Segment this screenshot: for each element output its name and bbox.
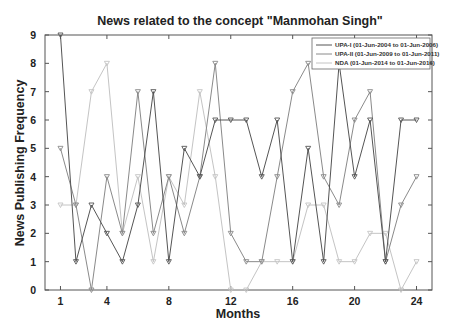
legend: UPA-I (01-Jun-2004 to 01-Jun-2006)UPA-II… [312,38,439,69]
x-tick-label: 8 [166,295,172,307]
y-tick-label: 9 [30,29,36,41]
y-tick-label: 2 [30,227,36,239]
y-tick-label: 0 [30,284,36,296]
series-line-2 [58,61,419,292]
y-tick-label: 6 [30,114,36,126]
chart-title: News related to the concept "Manmohan Si… [97,14,383,28]
legend-entry: NDA (01-Jun-2014 to 01-Jun-2016) [335,59,435,66]
x-tick-label: 24 [411,295,423,307]
y-tick-label: 8 [30,57,36,69]
legend-entry: UPA-I (01-Jun-2004 to 01-Jun-2006) [335,41,438,48]
y-tick-label: 3 [30,199,36,211]
x-tick-label: 1 [58,295,64,307]
line-chart: News related to the concept "Manmohan Si… [0,0,451,334]
y-axis-label: News Publishing Frequency [13,80,27,247]
series-line-1 [58,61,419,292]
legend-entry: UPA-II (01-Jun-2009 to 01-Jun-2011) [335,50,439,57]
x-tick-label: 20 [349,295,361,307]
plot-frame [45,35,432,290]
x-tick-label: 12 [225,295,237,307]
series-layer [58,33,419,293]
x-axis-label: Months [216,307,260,321]
y-tick-label: 7 [30,86,36,98]
x-tick-label: 16 [287,295,299,307]
y-tick-label: 4 [30,171,36,183]
x-tick-label: 4 [104,295,110,307]
y-tick-label: 5 [30,142,36,154]
plot-area: 148121620240123456789 [30,29,432,307]
y-tick-label: 1 [30,256,36,268]
